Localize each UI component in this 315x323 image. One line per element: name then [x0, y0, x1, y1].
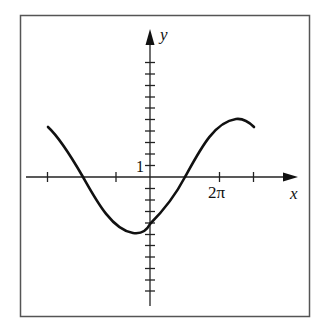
chart-figure: y x 1 2π	[0, 0, 315, 323]
chart-frame	[21, 16, 310, 317]
x-axis-label: x	[289, 184, 298, 203]
y-axis-arrow-icon	[146, 29, 155, 45]
y-axis	[145, 29, 155, 306]
y-axis-label: y	[158, 25, 168, 44]
data-curve	[48, 119, 254, 233]
y-tick-label-1: 1	[136, 158, 144, 175]
x-axis	[26, 172, 298, 182]
x-tick-label-2pi: 2π	[208, 183, 226, 202]
x-axis-arrow-icon	[283, 173, 298, 182]
